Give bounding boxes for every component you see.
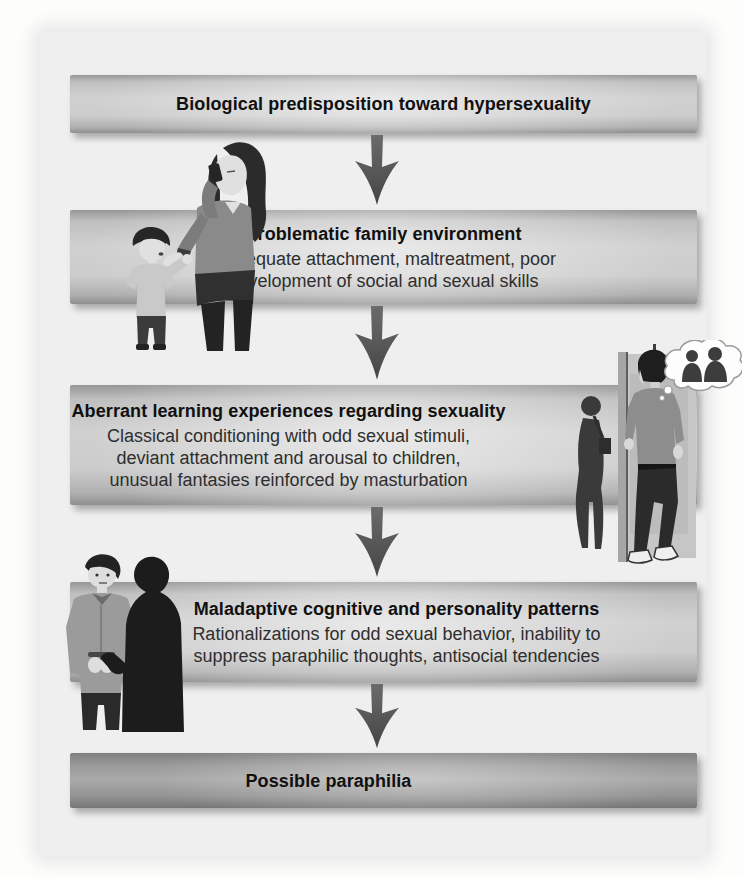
down-arrow-icon [349,134,405,208]
arrest-illustration [52,553,238,734]
voyeur-illustration [570,340,742,586]
box-subtitle: Classical conditioning with odd sexual s… [107,425,470,491]
down-arrow-icon [349,506,405,580]
flow-box-outcome: Possible paraphilia [70,753,697,808]
flow-box-biological: Biological predisposition toward hyperse… [70,75,697,133]
textbook-figure-page: Biological predisposition toward hyperse… [0,0,743,878]
down-arrow-icon [349,305,405,383]
down-arrow-icon [349,683,405,751]
woman-figure [160,142,266,351]
box-title: Biological predisposition toward hyperse… [176,93,591,115]
box-title: Aberrant learning experiences regarding … [71,400,505,422]
woman-silhouette [576,396,611,549]
box-title: Maladaptive cognitive and personality pa… [194,598,600,620]
thought-bubble [660,340,743,401]
mother-on-phone-with-child-illustration [105,138,295,353]
box-title: Possible paraphilia [246,770,412,792]
box-subtitle: Rationalizations for odd sexual behavior… [192,623,600,667]
